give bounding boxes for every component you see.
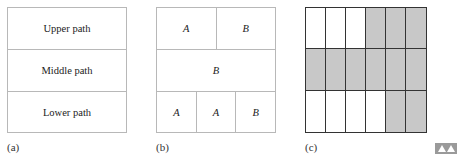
panel-c-label: (c)	[305, 141, 317, 153]
shaded-grid-cell	[326, 49, 346, 90]
panel-c-grid	[305, 7, 427, 133]
grid-cell	[306, 91, 326, 132]
panel-b-label: (b)	[156, 141, 169, 153]
lower-path-row: Lower path	[8, 92, 126, 132]
upper-path-cell: Upper path	[8, 8, 126, 49]
up-triangle-icon	[438, 145, 446, 152]
cell-a: A	[196, 92, 236, 132]
shaded-grid-cell	[406, 8, 426, 49]
panel-b-row-3: A A B	[157, 92, 275, 132]
shaded-grid-cell	[386, 49, 406, 90]
cell-b: B	[157, 50, 275, 91]
shaded-grid-cell	[386, 8, 406, 49]
shaded-grid-cell	[406, 91, 426, 132]
grid-cell	[366, 91, 386, 132]
shaded-grid-cell	[386, 91, 406, 132]
panel-a: Upper path Middle path Lower path	[7, 7, 127, 133]
lower-path-cell: Lower path	[8, 92, 126, 132]
shaded-grid-cell	[366, 8, 386, 49]
shaded-grid-cell	[346, 49, 366, 90]
panel-b-row-2: B	[157, 50, 275, 92]
panel-b: A B B A A B	[156, 7, 276, 133]
shaded-grid-cell	[406, 49, 426, 90]
panel-b-row-1: A B	[157, 8, 275, 50]
middle-path-cell: Middle path	[8, 50, 126, 91]
middle-path-row: Middle path	[8, 50, 126, 92]
up-triangle-icon	[447, 145, 455, 152]
grid-cell	[346, 8, 366, 49]
navigation-arrows-icon[interactable]	[435, 143, 457, 154]
upper-path-row: Upper path	[8, 8, 126, 50]
grid-cell	[326, 8, 346, 49]
shaded-grid-cell	[366, 49, 386, 90]
cell-b: B	[235, 92, 275, 132]
shaded-grid-cell	[306, 49, 326, 90]
grid-cell	[326, 91, 346, 132]
grid-cell	[346, 91, 366, 132]
grid-cell	[306, 8, 326, 49]
cell-b: B	[216, 8, 276, 49]
panel-a-label: (a)	[7, 141, 19, 153]
cell-a: A	[157, 8, 216, 49]
cell-a: A	[157, 92, 196, 132]
